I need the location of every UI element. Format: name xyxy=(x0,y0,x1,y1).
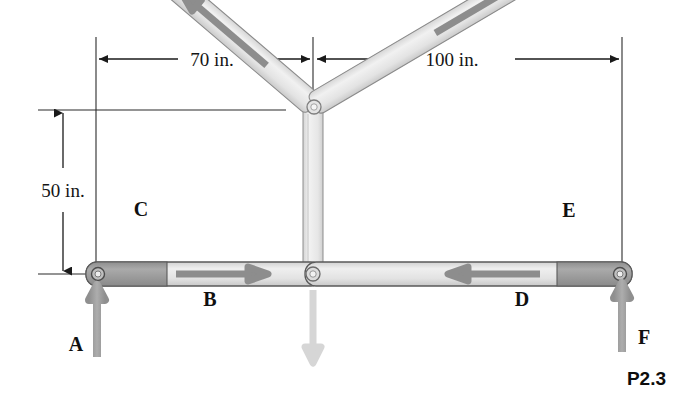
force-arrow-F xyxy=(614,283,630,352)
member-vertical xyxy=(303,108,323,276)
figure-caption: P2.3 xyxy=(627,368,666,389)
member-label-E: E xyxy=(562,199,575,221)
member-label-D: D xyxy=(515,288,529,310)
member-label-C: C xyxy=(134,198,148,220)
dimension-label-70in: 70 in. xyxy=(190,49,233,70)
dimension-extension-lines xyxy=(38,37,622,276)
force-arrow-center-down xyxy=(305,290,321,363)
member-D xyxy=(305,262,632,286)
joint-bottom-center-pin xyxy=(306,267,320,281)
dimension-label-100in: 100 in. xyxy=(426,49,479,70)
truss-diagram: 70 in. 100 in. 50 in. xyxy=(0,0,683,401)
figure-canvas: 70 in. 100 in. 50 in. xyxy=(0,0,683,401)
force-label-A: A xyxy=(69,333,84,355)
joint-apex-pin xyxy=(307,100,321,114)
joint-right-support-pin xyxy=(614,268,627,281)
member-label-B: B xyxy=(203,288,216,310)
dimension-50in: 50 in. xyxy=(41,113,84,271)
joint-left-support-pin xyxy=(92,268,105,281)
dimension-label-50in: 50 in. xyxy=(41,180,84,201)
member-B xyxy=(86,262,322,286)
joint-pins xyxy=(92,100,627,281)
member-vertical-body xyxy=(303,108,323,276)
force-label-F: F xyxy=(638,326,650,348)
force-arrow-A xyxy=(89,285,105,357)
